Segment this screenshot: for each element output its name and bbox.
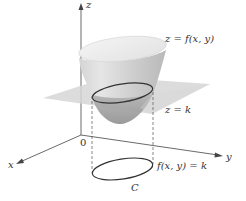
x-axis-arrow-icon xyxy=(16,159,24,165)
level-curve-c xyxy=(91,154,154,183)
y-axis xyxy=(81,135,223,158)
diagram-canvas: z x y 0 z = f(x, y) z = k f(x, y) = k C xyxy=(0,0,246,201)
y-axis-arrow-icon xyxy=(215,153,224,158)
surface-equation-label: z = f(x, y) xyxy=(164,33,214,44)
level-curve-equation-label: f(x, y) = k xyxy=(156,160,207,171)
z-axis-label: z xyxy=(85,0,92,10)
x-axis xyxy=(16,135,81,164)
x-axis-label: x xyxy=(8,159,14,170)
z-axis-arrow-icon xyxy=(79,3,84,10)
level-curve-diagram: z x y 0 z = f(x, y) z = k f(x, y) = k C xyxy=(0,0,246,201)
plane-equation-label: z = k xyxy=(164,104,191,115)
level-curve-name-label: C xyxy=(131,182,139,193)
origin-label: 0 xyxy=(80,137,86,148)
y-axis-label: y xyxy=(225,151,232,162)
